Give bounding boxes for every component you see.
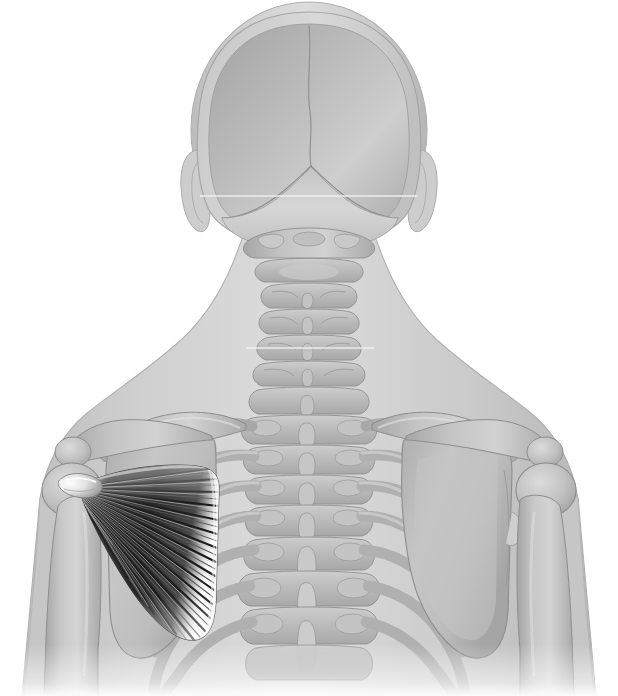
- anatomy-figure: Posterior view of head, neck and upper t…: [0, 0, 618, 696]
- vertebra-t4: [246, 505, 373, 542]
- anatomy-illustration-canvas: Posterior view of head, neck and upper t…: [0, 0, 618, 696]
- bottom-fade-overlay: [0, 560, 618, 696]
- vertebra-t2: [244, 445, 375, 478]
- vertebrae-c3-c7: [249, 283, 369, 417]
- skull-group: [197, 12, 421, 250]
- vertebra-c2-axis: [255, 258, 363, 282]
- vertebra-t1: [242, 415, 377, 448]
- vertebra-t3: [246, 475, 373, 508]
